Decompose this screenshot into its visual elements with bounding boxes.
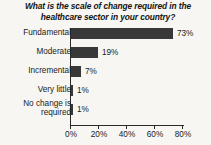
- x-tick-label-20: 20%: [91, 130, 107, 140]
- bar-fundamental: [71, 28, 173, 39]
- plot-area: Fundamental Moderate Incremental Very li…: [0, 25, 211, 145]
- x-tick-label-40: 40%: [119, 130, 135, 140]
- category-label-incremental: Incremental: [0, 67, 71, 76]
- value-label-very-little: 1%: [77, 85, 89, 96]
- bar-incremental: [71, 66, 81, 77]
- bar-moderate: [71, 47, 98, 58]
- value-label-no-change-required: 1%: [77, 104, 89, 115]
- x-axis-line: [70, 125, 184, 126]
- value-label-incremental: 7%: [85, 66, 97, 77]
- x-tick-mark-40: [126, 126, 127, 129]
- x-tick-label-0: 0%: [65, 130, 77, 140]
- category-label-fundamental: Fundamental: [0, 29, 71, 38]
- bar-chart-figure: What is the scale of change required in …: [0, 0, 211, 145]
- bar-very-little: [71, 85, 73, 96]
- x-tick-mark-0: [70, 126, 71, 129]
- x-tick-mark-60: [154, 126, 155, 129]
- value-label-moderate: 19%: [102, 47, 118, 58]
- x-tick-label-60: 60%: [147, 130, 163, 140]
- category-label-moderate: Moderate: [0, 48, 71, 57]
- x-tick-mark-80: [182, 126, 183, 129]
- category-label-no-change-required: No change is required: [0, 100, 71, 118]
- category-label-very-little: Very little: [0, 86, 71, 95]
- chart-title: What is the scale of change required in …: [14, 1, 202, 22]
- x-tick-mark-20: [98, 126, 99, 129]
- x-tick-label-80: 80%: [175, 130, 191, 140]
- value-label-fundamental: 73%: [177, 28, 193, 39]
- bar-no-change-required: [71, 104, 73, 115]
